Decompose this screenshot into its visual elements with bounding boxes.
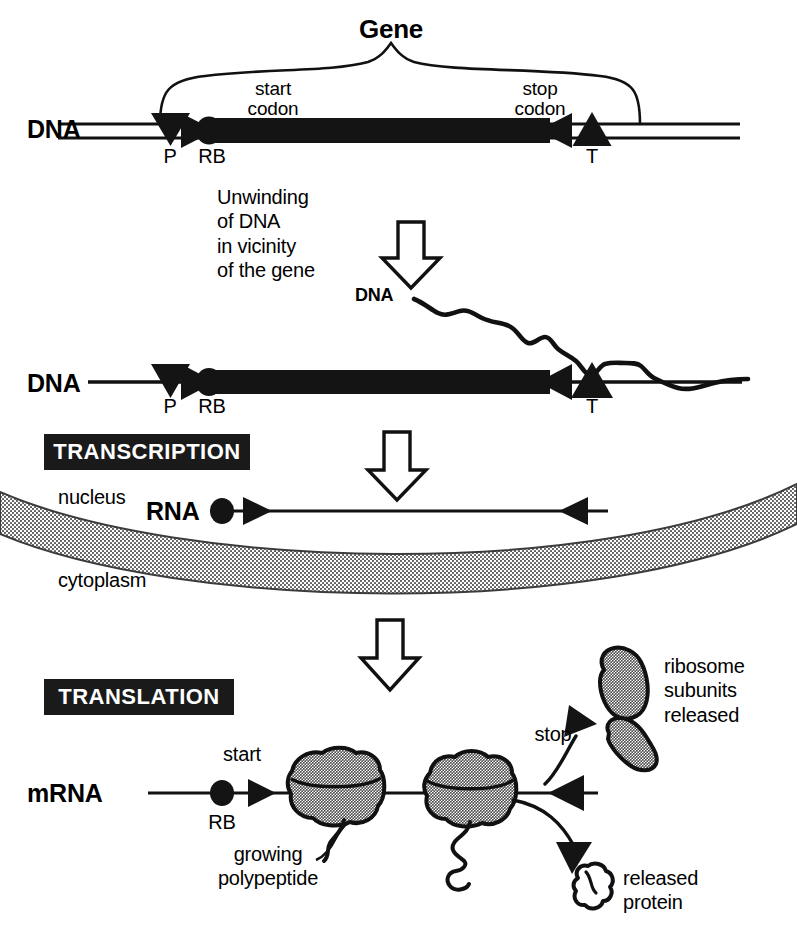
gene-brace: [160, 43, 640, 124]
rna-transcript-group: [210, 497, 608, 525]
rna-stop-arrow: [559, 497, 588, 525]
nucleus-label: nucleus: [58, 487, 126, 508]
released-protein-label: released protein: [623, 866, 698, 915]
start-label-translation: start: [223, 744, 261, 765]
unwinding-description: Unwinding of DNA in vicinity of the gene: [217, 185, 315, 283]
terminator-label-stage1: T: [586, 146, 598, 167]
start-codon-label: start codon: [248, 79, 299, 119]
stop-label-translation: stop: [534, 724, 571, 745]
promoter-label-stage2: P: [163, 396, 176, 417]
ribosome-subunit-small: [607, 718, 656, 770]
ribosome-binding-label-stage2: RB: [198, 396, 225, 417]
stage1-dna-group: [58, 43, 740, 148]
released-protein-arrowhead: [556, 842, 592, 874]
dna-label-stage2: DNA: [27, 370, 81, 397]
mrna-label: mRNA: [27, 780, 103, 807]
promoter-label-stage1: P: [163, 146, 176, 167]
released-protein-blob: [574, 864, 613, 909]
unwound-dna-label: DNA: [355, 286, 393, 305]
transcription-block-arrow: [368, 432, 426, 500]
ribosome-first: [288, 748, 385, 826]
growing-polypeptide-label: growing polypeptide: [218, 842, 318, 890]
rna-ribosome-binding-marker: [210, 498, 234, 524]
unwinding-block-arrow: [382, 222, 440, 288]
gene-title-label: Gene: [359, 16, 423, 44]
folded-polypeptide: [448, 822, 470, 890]
transcription-stage-box: TRANSCRIPTION: [44, 434, 250, 470]
stop-codon-label: stop codon: [515, 79, 566, 119]
released-protein-arrow-curve: [513, 800, 574, 846]
terminator-label-stage2: T: [586, 396, 598, 417]
ribosome-subunits-released-label: ribosome subunits released: [664, 654, 745, 727]
mrna-stop-arrow: [548, 775, 584, 811]
dna-label-stage1: DNA: [27, 116, 81, 143]
ribosome-binding-label-translation: RB: [208, 812, 235, 833]
terminator-marker: [573, 112, 612, 146]
translation-block-arrow: [361, 620, 419, 690]
mrna-ribosome-binding-marker: [210, 780, 234, 806]
ribosome-subunit-large: [600, 648, 648, 719]
ribosome-binding-marker-2: [196, 368, 222, 396]
ribosome-binding-marker: [196, 117, 222, 145]
ribosome-second: [424, 751, 516, 826]
ribosome-binding-label-stage1: RB: [198, 146, 225, 167]
terminator-marker-2: [571, 362, 613, 398]
translation-stage-box: TRANSLATION: [44, 679, 234, 715]
stop-codon-arrow-2: [538, 364, 572, 400]
mrna-start-arrow: [248, 779, 276, 807]
unwinding-group: [382, 222, 748, 389]
rna-start-arrow: [243, 497, 272, 525]
gene-body-bar-2: [205, 370, 550, 394]
gene-body-bar: [205, 118, 550, 143]
rna-label: RNA: [146, 498, 200, 525]
cytoplasm-label: cytoplasm: [58, 570, 146, 591]
transcription-translation-diagram: Gene DNA start codon stop codon P RB T U…: [0, 0, 797, 938]
